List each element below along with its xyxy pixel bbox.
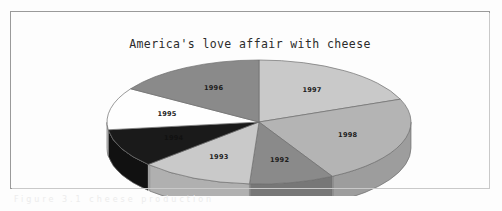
chart-frame: America's love affair with cheese 199719…: [10, 11, 490, 189]
pie-slice-label: 1995: [157, 110, 176, 118]
scan-artifact-text: Figure 3.1 cheese production: [14, 195, 234, 207]
pie-slice-label: 1993: [209, 153, 228, 161]
pie-slices: [107, 60, 411, 184]
pie-slice-label: 1992: [270, 156, 289, 164]
chart-title: America's love affair with cheese: [11, 37, 489, 51]
pie-slice-label: 1997: [302, 86, 321, 94]
pie-slice-label: 1998: [338, 131, 357, 139]
pie-chart: 1997199819921993199419951996: [89, 56, 429, 196]
screenshot-root: America's love affair with cheese 199719…: [0, 0, 502, 211]
pie-slice-label: 1996: [204, 84, 223, 92]
pie-chart-svg: 1997199819921993199419951996: [89, 56, 429, 196]
pie-slice-label: 1994: [164, 134, 183, 142]
